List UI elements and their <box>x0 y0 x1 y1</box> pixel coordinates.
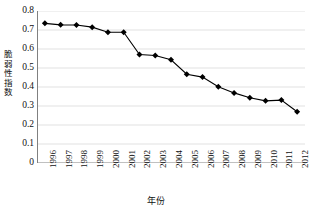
x-axis-tick-label: 1999 <box>96 150 105 168</box>
x-axis-tick-label: 2005 <box>191 150 200 168</box>
y-axis-tick-label: 0.6 <box>13 44 34 54</box>
x-axis-tick-label: 1997 <box>65 150 74 168</box>
data-point-marker <box>89 24 95 30</box>
x-axis-tick-label: 2009 <box>254 150 263 168</box>
data-point-marker <box>200 74 206 80</box>
y-axis-tick-label: 0.1 <box>13 139 34 149</box>
vulnerability-index-line-chart: 脆弱性指数 00.10.20.30.40.50.60.70.8 19961997… <box>0 0 312 213</box>
data-point-marker <box>42 20 48 26</box>
x-axis-tick-label: 2006 <box>207 150 216 168</box>
x-axis-tick-labels: 1996199719981999200020012002200320042005… <box>37 164 305 198</box>
data-line <box>45 23 297 111</box>
data-point-marker <box>247 95 253 101</box>
y-axis-tick-label: 0.3 <box>13 101 34 111</box>
x-axis-title: 年份 <box>0 196 312 206</box>
data-point-marker <box>215 84 221 90</box>
x-axis-tick-label: 2007 <box>222 150 231 168</box>
axis-lines <box>37 11 38 163</box>
plot-area <box>37 11 305 163</box>
x-axis-tick-label: 2002 <box>143 150 152 168</box>
x-axis-tick-label: 2012 <box>301 150 310 168</box>
y-axis-tick-label: 0 <box>13 158 34 168</box>
y-axis-tick-label: 0.4 <box>13 82 34 92</box>
y-axis-tick-label: 0.8 <box>13 6 34 16</box>
x-axis-tick-label: 1996 <box>49 150 58 168</box>
data-point-marker <box>58 22 64 28</box>
x-axis-tick-label: 2004 <box>175 150 184 168</box>
x-axis-tick-label: 2010 <box>270 150 279 168</box>
y-axis-tick-label: 0.2 <box>13 120 34 130</box>
x-axis-tick-label: 2000 <box>112 150 121 168</box>
x-axis-tick-label: 2011 <box>285 150 294 168</box>
x-axis-tick-label: 2001 <box>128 150 137 168</box>
gridlines <box>37 11 305 163</box>
x-axis-tick-label: 2003 <box>159 150 168 168</box>
data-point-marker <box>152 52 158 58</box>
plot-svg <box>37 11 305 163</box>
data-point-marker <box>231 90 237 96</box>
y-axis-tick-label: 0.5 <box>13 63 34 73</box>
y-axis-tick-labels: 00.10.20.30.40.50.60.70.8 <box>13 0 34 213</box>
data-point-marker <box>73 22 79 28</box>
x-axis-tick-label: 2008 <box>238 150 247 168</box>
data-point-marker <box>263 98 269 104</box>
y-axis-tick-label: 0.7 <box>13 25 34 35</box>
x-axis-tick-label: 1998 <box>80 150 89 168</box>
